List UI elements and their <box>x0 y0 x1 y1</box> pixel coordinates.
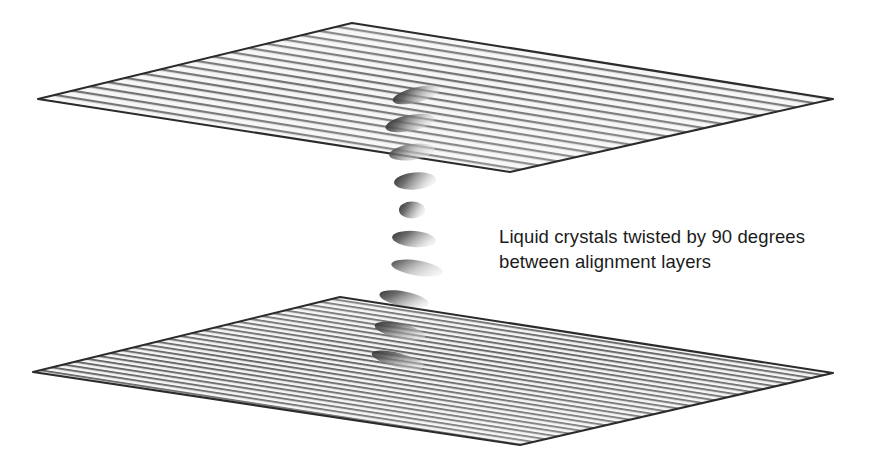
lc-molecule-7 <box>390 257 444 280</box>
diagram-caption: Liquid crystals twisted by 90 degrees be… <box>499 224 829 274</box>
caption-line-2: between alignment layers <box>499 249 829 274</box>
lc-molecule-4 <box>393 171 436 192</box>
lc-molecule-5 <box>399 202 425 219</box>
top-alignment-layer <box>20 10 860 190</box>
caption-line-1: Liquid crystals twisted by 90 degrees <box>499 224 829 249</box>
bottom-alignment-layer <box>20 285 860 460</box>
lc-molecule-6 <box>391 229 436 249</box>
lc-molecules-gap-group <box>390 171 444 280</box>
twisted-nematic-diagram: Liquid crystals twisted by 90 degrees be… <box>0 0 879 460</box>
